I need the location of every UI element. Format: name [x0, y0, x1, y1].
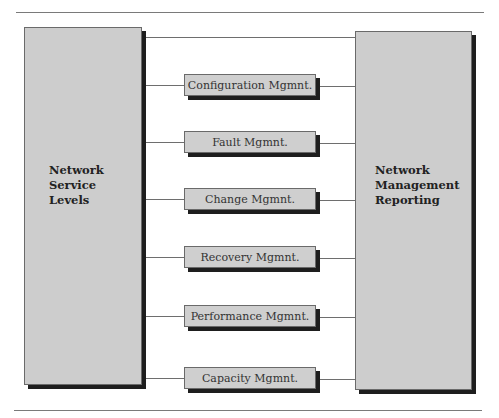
fault-mgmnt-box: Fault Mgmnt.	[184, 131, 316, 153]
configuration-mgmnt-box: Configuration Mgmnt.	[184, 74, 316, 96]
network-service-levels-box: Network Service Levels	[24, 27, 142, 385]
top-rule	[16, 12, 484, 13]
label-line: Management	[375, 178, 460, 193]
connector-right	[320, 200, 355, 201]
recovery-mgmnt-box: Recovery Mgmnt.	[184, 246, 316, 268]
network-service-levels-label: Network Service Levels	[49, 163, 104, 208]
connector-right	[320, 86, 355, 87]
function-label: Change Mgmnt.	[205, 193, 295, 206]
label-line: Reporting	[375, 193, 460, 208]
function-label: Performance Mgmnt.	[191, 310, 310, 323]
connector-left	[146, 316, 184, 317]
connector-left	[146, 257, 184, 258]
connector-right	[320, 379, 355, 380]
connector-left	[146, 378, 184, 379]
connector-right	[320, 258, 355, 259]
change-mgmnt-box: Change Mgmnt.	[184, 188, 316, 210]
label-line: Network	[375, 163, 460, 178]
function-label: Capacity Mgmnt.	[202, 372, 298, 385]
connector-right	[320, 143, 355, 144]
connector-left	[146, 85, 184, 86]
capacity-mgmnt-box: Capacity Mgmnt.	[184, 367, 316, 389]
function-label: Fault Mgmnt.	[212, 136, 288, 149]
label-line: Levels	[49, 193, 104, 208]
function-label: Recovery Mgmnt.	[200, 251, 299, 264]
label-line: Service	[49, 178, 104, 193]
performance-mgmnt-box: Performance Mgmnt.	[184, 305, 316, 327]
connector-left	[146, 199, 184, 200]
network-management-reporting-label: Network Management Reporting	[375, 163, 460, 208]
label-line: Network	[49, 163, 104, 178]
connector-direct	[146, 37, 355, 38]
network-management-reporting-box: Network Management Reporting	[355, 31, 472, 390]
connector-left	[146, 142, 184, 143]
function-label: Configuration Mgmnt.	[188, 79, 312, 92]
connector-right	[320, 317, 355, 318]
bottom-rule	[14, 410, 482, 411]
